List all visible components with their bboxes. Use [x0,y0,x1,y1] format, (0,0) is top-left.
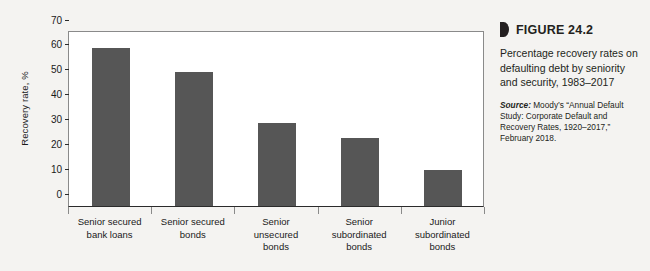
x-axis-label-line: bonds [401,241,484,254]
y-axis-tick: 50 [51,64,69,76]
x-axis-separator [318,207,319,214]
x-axis-separator [151,207,152,214]
y-axis-tick: 0 [56,188,69,200]
x-axis-label-line: unsecured [234,229,317,242]
x-axis-label-line: bonds [318,241,401,254]
bar-slot [235,32,318,206]
x-axis-label: Juniorsubordinatedbonds [401,216,484,254]
bar[interactable] [92,48,130,206]
x-axis-separator [68,207,69,214]
bar-slot [69,32,152,206]
x-axis-label-line: Senior secured [151,216,234,229]
figure-caption-text: Percentage recovery rates on defaulting … [500,46,640,90]
figure-container: Recovery rate, % 010203040506070 Senior … [0,0,650,271]
y-axis-tick-mark [65,20,69,21]
x-axis-label: Seniorsubordinatedbonds [318,216,401,254]
bar-chart: Recovery rate, % 010203040506070 Senior … [0,0,492,271]
y-axis-tick: 70 [51,14,69,26]
y-axis-tick-label: 70 [51,15,62,26]
source-label: Source: [500,100,531,110]
x-axis-label-line: subordinated [318,229,401,242]
figure-source-note: Source: Moody’s “Annual Default Study: C… [500,100,640,145]
bars-layer [69,32,483,206]
bar[interactable] [258,123,296,206]
x-axis-separator [484,207,485,214]
x-axis-labels: Senior securedbank loansSenior securedbo… [68,216,484,264]
y-axis-tick-label: 10 [51,164,62,175]
triangle-marker-icon [500,22,509,37]
x-axis-label: Senior securedbonds [151,216,234,241]
x-axis-label-line: Senior [318,216,401,229]
bar[interactable] [424,170,462,206]
x-axis-label: Seniorunsecuredbonds [234,216,317,254]
y-axis-tick: 40 [51,89,69,101]
figure-heading: FIGURE 24.2 [500,22,640,37]
y-axis-tick: 10 [51,163,69,175]
figure-caption-panel: FIGURE 24.2 Percentage recovery rates on… [500,22,640,144]
bar[interactable] [341,138,379,206]
x-axis-label-line: Junior [401,216,484,229]
x-axis-label-line: Senior [234,216,317,229]
x-axis-label-line: bonds [234,241,317,254]
y-axis-tick-label: 40 [51,89,62,100]
y-axis-tick-label: 20 [51,139,62,150]
bar-slot [319,32,402,206]
y-axis-tick: 20 [51,138,69,150]
y-axis-tick: 30 [51,113,69,125]
x-axis-label-line: bank loans [68,229,151,242]
y-axis-tick: 60 [51,39,69,51]
bar[interactable] [175,72,213,206]
y-axis-tick-label: 50 [51,64,62,75]
y-axis-tick-label: 30 [51,114,62,125]
y-axis-tick-label: 0 [56,189,62,200]
x-axis-label-line: Senior secured [68,216,151,229]
plot-area: 010203040506070 [68,31,484,207]
y-axis-title: Recovery rate, % [19,44,30,174]
x-axis-separator [234,207,235,214]
y-axis-tick-label: 60 [51,39,62,50]
x-axis-label: Senior securedbank loans [68,216,151,241]
x-axis-label-line: subordinated [401,229,484,242]
figure-number: FIGURE 24.2 [516,23,593,37]
bar-slot [402,32,485,206]
bar-slot [152,32,235,206]
x-axis-label-line: bonds [151,229,234,242]
x-axis-separator [401,207,402,214]
